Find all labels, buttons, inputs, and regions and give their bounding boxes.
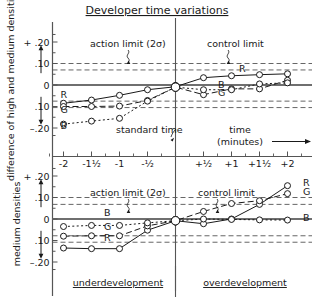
data-point-R-top — [201, 75, 207, 81]
control-limit-leader-bottom-head — [216, 210, 220, 213]
data-point-B-bottom — [229, 216, 235, 222]
x-axis-arrow-head — [305, 139, 311, 144]
y-axis-title-bottom: medium densities — [11, 182, 22, 267]
overdevelopment-label: overdevelopment — [203, 277, 287, 288]
action-limit-leader-top-head — [127, 61, 131, 64]
series-label-B-bottom-right: B — [303, 212, 310, 223]
data-point-R-top — [145, 87, 151, 93]
data-point-B-bottom — [201, 216, 207, 222]
data-point-G-top — [89, 104, 95, 110]
data-point-R-top — [285, 71, 291, 77]
data-point-B-top — [201, 87, 207, 93]
data-point-R-bottom — [61, 245, 67, 251]
data-point-B-bottom — [257, 217, 263, 223]
underdevelopment-label: underdevelopment — [73, 277, 164, 288]
data-point-G-top — [117, 103, 123, 109]
y-tick-label-bottom: 0 — [43, 214, 49, 225]
data-point-B-bottom — [145, 220, 151, 226]
data-point-R-top — [257, 72, 263, 78]
y-tick-label-bottom: + .20 — [23, 171, 49, 182]
action-limit-leader-bottom-head — [127, 210, 131, 213]
data-point-R-top — [89, 97, 95, 103]
developer-time-variations-figure: Developer time variations+ .20.100.10–.2… — [0, 0, 314, 302]
series-label-G-top: G — [61, 104, 68, 115]
y-tick-label-top: 0 — [43, 80, 49, 91]
y-tick-label-top: .10 — [34, 101, 49, 112]
data-point-R-top — [117, 92, 123, 98]
chart-title: Developer time variations — [86, 4, 229, 17]
chart-canvas: Developer time variations+ .20.100.10–.2… — [0, 0, 314, 302]
y-tick-label-bottom: –.20 — [30, 257, 50, 268]
action-limit-label-top: action limit (2σ) — [90, 38, 166, 49]
action-limit-label-bottom: action limit (2σ) — [90, 187, 166, 198]
x-tick-label: +1¹⁄₂ — [248, 158, 271, 169]
x-tick-label: -1¹⁄₂ — [82, 158, 101, 169]
y-tick-label-bottom: .10 — [34, 235, 49, 246]
x-tick-label: +¹⁄₂ — [195, 158, 212, 169]
data-point-G-bottom — [257, 198, 263, 204]
data-point-G-bottom — [117, 233, 123, 239]
y-tick-label-top: .10 — [34, 58, 49, 69]
data-point-B-top — [89, 118, 95, 124]
series-label-G-bottom: G — [104, 221, 111, 232]
data-point-R-top — [229, 73, 235, 79]
data-point-B-bottom — [171, 217, 179, 225]
data-point-B-top — [285, 80, 291, 86]
standard-time-leader-head — [171, 138, 175, 142]
data-point-B-top — [229, 87, 235, 93]
y-tick-label-bottom: .10 — [34, 192, 49, 203]
data-point-B-bottom — [117, 222, 123, 228]
series-label-R-top: R — [61, 89, 68, 100]
action-limit-leader-top — [127, 50, 129, 62]
data-point-B-top — [257, 81, 263, 87]
data-point-G-bottom — [285, 191, 291, 197]
data-point-G-bottom — [229, 201, 235, 207]
data-point-R-bottom — [285, 183, 291, 189]
control-limit-leader-top — [227, 50, 229, 62]
y-tick-label-top: –.20 — [30, 123, 50, 134]
x-axis-label-line1: time — [229, 124, 251, 135]
data-point-B-bottom — [285, 217, 291, 223]
x-tick-label: -¹⁄₂ — [141, 158, 154, 169]
data-point-G-bottom — [89, 233, 95, 239]
data-point-B-top — [171, 83, 179, 91]
data-point-R-bottom — [89, 246, 95, 252]
data-point-B-top — [117, 115, 123, 121]
x-tick-label: -1 — [115, 158, 124, 169]
y-axis-title-top: difference of high and medium densities — [5, 0, 16, 181]
series-label-G-top-right: G — [218, 87, 225, 98]
series-label-R-bottom: R — [104, 232, 111, 243]
data-point-B-top — [145, 98, 151, 104]
control-limit-label-top: control limit — [207, 38, 264, 49]
x-tick-label: -2 — [59, 158, 68, 169]
series-label-G-bottom-right: G — [303, 186, 310, 197]
data-point-G-bottom — [201, 208, 207, 214]
x-tick-label: +2 — [280, 158, 294, 169]
series-label-R-top-right: R — [239, 63, 246, 74]
data-point-B-bottom — [61, 224, 67, 230]
control-limit-leader-top-head — [227, 61, 231, 64]
action-limit-leader-bottom — [127, 199, 129, 211]
data-point-R-bottom — [117, 246, 123, 252]
data-point-B-bottom — [89, 222, 95, 228]
y-tick-label-top: + .20 — [23, 37, 49, 48]
x-axis-label-line2: (minutes) — [217, 136, 263, 147]
control-limit-label-bottom: control limit — [198, 187, 255, 198]
data-point-G-bottom — [61, 233, 67, 239]
series-label-B-top: B — [61, 120, 68, 131]
series-label-B-bottom: B — [104, 207, 111, 218]
control-limit-leader-bottom — [216, 199, 218, 211]
x-tick-label: +1 — [224, 158, 238, 169]
